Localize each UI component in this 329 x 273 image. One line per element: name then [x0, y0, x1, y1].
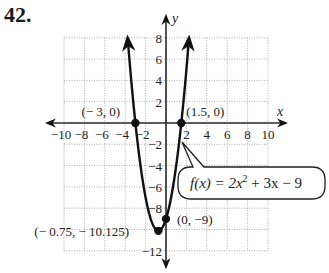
y-tick-label: 4 — [156, 73, 163, 88]
x-tick-label: 4 — [204, 127, 211, 142]
y-tick-label: 8 — [156, 31, 163, 46]
key-point-dot — [162, 215, 170, 223]
x-tick-label: 10 — [262, 127, 275, 142]
x-tick-label: −8 — [74, 127, 88, 142]
y-tick-label: −2 — [148, 137, 162, 152]
x-tick-label: −6 — [95, 127, 109, 142]
y-axis-label: y — [170, 11, 179, 26]
x-axis-label: x — [276, 104, 284, 119]
x-tick-label: 2 — [183, 127, 190, 142]
y-tick-label: 2 — [156, 95, 163, 110]
y-tick-label: −6 — [148, 180, 162, 195]
y-tick-label: −12 — [142, 244, 162, 259]
y-tick-label: 6 — [156, 52, 163, 67]
key-point-label: (− 3, 0) — [81, 104, 120, 119]
key-point-dot — [131, 119, 139, 127]
x-tick-label: −4 — [115, 127, 129, 142]
x-tick-label: 6 — [224, 127, 231, 142]
key-point-label: (1.5, 0) — [186, 104, 224, 119]
function-callout: f(x) = 2x2 + 3x − 9 — [178, 142, 325, 199]
function-graph: x y −10−8−6−4−22468108642−2−4−6−8−12 (− … — [0, 0, 329, 273]
key-point-dot — [154, 227, 162, 235]
key-point-label: (− 0.75, − 10.125) — [34, 224, 129, 239]
key-point-dot — [177, 119, 185, 127]
x-tick-label: −10 — [51, 127, 71, 142]
y-tick-label: −4 — [148, 159, 162, 174]
key-point-label: (0, −9) — [177, 212, 213, 227]
x-tick-label: 8 — [244, 127, 251, 142]
